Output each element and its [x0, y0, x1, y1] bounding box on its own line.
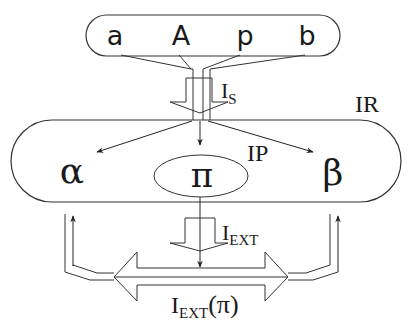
symbol-A: A — [172, 20, 191, 51]
internal-arrows — [97, 121, 313, 152]
diagram-canvas: a A p b IS IR α π IP β IEXT — [0, 0, 413, 331]
label-ip: IP — [247, 140, 268, 166]
node-beta: β — [323, 152, 344, 193]
ext-double-arrow — [114, 252, 288, 301]
symbol-a: a — [107, 20, 124, 51]
symbol-p: p — [236, 20, 253, 51]
label-is: IS — [221, 78, 237, 107]
ext-arrow — [170, 218, 228, 251]
label-ir: IR — [355, 91, 379, 117]
symbol-b: b — [298, 20, 315, 51]
node-alpha: α — [60, 150, 84, 191]
label-iext: IEXT — [222, 220, 259, 248]
selection-arrow — [170, 78, 228, 113]
label-iext-pi: IEXT(π) — [171, 290, 239, 321]
converging-lines — [121, 55, 305, 120]
right-feedback — [288, 214, 338, 280]
node-pi: π — [191, 155, 213, 195]
left-feedback — [65, 214, 114, 280]
